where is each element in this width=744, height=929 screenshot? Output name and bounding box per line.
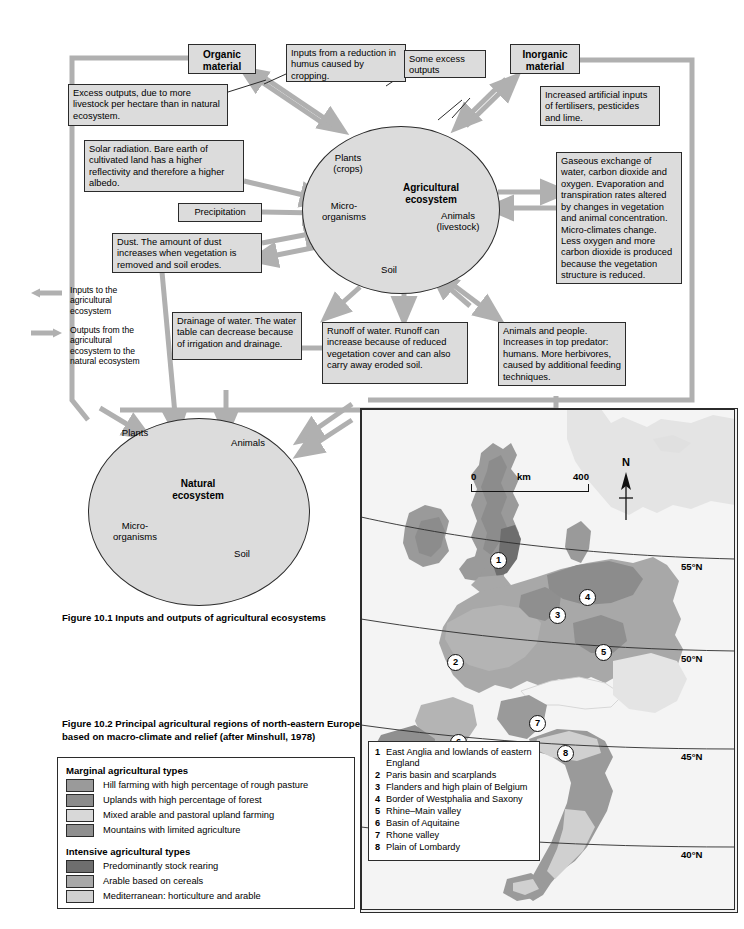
map-marker-2: 2: [447, 654, 464, 671]
map-legend: Marginal agricultural types Hill farming…: [57, 757, 355, 909]
legend-row: Uplands with high percentage of forest: [66, 794, 346, 807]
legend-row: Mountains with limited agriculture: [66, 824, 346, 837]
natural-ecosystem-circle: [88, 418, 310, 606]
north-arrow-icon: [613, 468, 639, 522]
region-key-row: 3Flanders and high plain of Belgium: [375, 782, 533, 793]
legend-swatch: [66, 794, 94, 807]
box-drainage: Drainage of water. The water table can d…: [172, 312, 302, 360]
legend-label: Hill farming with high percentage of rou…: [103, 780, 308, 791]
box-solar-radiation: Solar radiation. Bare earth of cultivate…: [84, 140, 244, 192]
agricultural-ecosystem-title: Agricultural ecosystem: [378, 182, 484, 206]
legend-swatch: [66, 875, 94, 888]
agricultural-plants-label: Plants (crops): [318, 152, 378, 175]
box-fertilisers-text: Increased artificial inputs of fertilise…: [545, 90, 647, 123]
region-key-number: 7: [375, 830, 386, 841]
map-marker-8: 8: [557, 745, 574, 762]
legend-swatch: [66, 779, 94, 792]
nat-soil-text: Soil: [234, 548, 250, 559]
natural-micro-label: Micro- organisms: [100, 520, 170, 543]
box-runoff-text: Runoff of water. Runoff can increase bec…: [327, 326, 451, 370]
box-gaseous-exchange: Gaseous exchange of water, carbon dioxid…: [556, 152, 682, 284]
map-marker-1: 1: [490, 552, 507, 569]
box-precipitation-text: Precipitation: [194, 207, 245, 217]
region-key-row: 4Border of Westphalia and Saxony: [375, 794, 533, 805]
natural-ecosystem-title: Natural ecosystem: [152, 478, 244, 502]
key-outputs-label: Outputs from the agricultural ecosystem …: [70, 325, 144, 367]
agri-micro-l2: organisms: [322, 211, 366, 222]
node-inorganic-material: Inorganic material: [510, 44, 580, 74]
map-marker-3: 3: [549, 607, 566, 624]
agri-title-l2: ecosystem: [405, 194, 457, 205]
agri-animals-l2: (livestock): [437, 221, 480, 232]
box-humus-text: Inputs from a reduction in humus caused …: [291, 48, 396, 81]
region-key-label: Basin of Aquitaine: [386, 818, 533, 829]
region-key-label: Flanders and high plain of Belgium: [386, 782, 533, 793]
region-key-number: 5: [375, 806, 386, 817]
nat-title-l1: Natural: [181, 478, 215, 489]
figure-10-2-caption-l1: Figure 10.2 Principal agricultural regio…: [62, 718, 360, 729]
region-key-label: East Anglia and lowlands of eastern Engl…: [386, 747, 533, 769]
nat-animals-text: Animals: [231, 437, 265, 448]
legend-row: Predominantly stock rearing: [66, 860, 346, 873]
box-humus-input: Inputs from a reduction in humus caused …: [286, 44, 406, 82]
legend-swatch: [66, 824, 94, 837]
region-key-label: Border of Westphalia and Saxony: [386, 794, 533, 805]
legend-row: Mediterranean: horticulture and arable: [66, 890, 346, 903]
nat-title-l2: ecosystem: [172, 490, 224, 501]
legend-swatch: [66, 890, 94, 903]
agricultural-animals-label: Animals (livestock): [422, 210, 494, 233]
lat-label-55n: 55°N: [681, 561, 702, 572]
region-key-number: 4: [375, 794, 386, 805]
organic-line-1: Organic: [203, 49, 241, 60]
box-some-excess-text: Some excess outputs: [409, 54, 465, 75]
region-key-label: Plain of Lombardy: [386, 842, 533, 853]
box-some-excess-outputs: Some excess outputs: [404, 50, 486, 78]
region-key-number: 8: [375, 842, 386, 853]
agri-plants-l1: Plants: [335, 152, 361, 163]
north-arrow: N: [613, 457, 639, 526]
box-solar-text: Solar radiation. Bare earth of cultivate…: [89, 144, 224, 188]
map-scale-bar: 0 km 400: [471, 471, 589, 492]
inorganic-line-1: Inorganic: [522, 49, 567, 60]
legend-label: Predominantly stock rearing: [103, 861, 218, 872]
figure-10-1-caption-text: Figure 10.1 Inputs and outputs of agricu…: [62, 612, 326, 623]
map-region-key: 1East Anglia and lowlands of eastern Eng…: [368, 741, 540, 861]
box-animals-people-text: Animals and people. Increases in top pre…: [503, 326, 621, 382]
map-marker-7: 7: [529, 715, 546, 732]
legend-label: Mountains with limited agriculture: [103, 825, 240, 836]
nat-micro-l1: Micro-: [122, 520, 148, 531]
figure-10-2-caption-l2: based on macro-climate and relief (after…: [62, 731, 315, 742]
legend-label: Mediterranean: horticulture and arable: [103, 891, 261, 902]
agri-title-l1: Agricultural: [403, 182, 459, 193]
nat-micro-l2: organisms: [113, 531, 157, 542]
box-animals-and-people: Animals and people. Increases in top pre…: [498, 322, 626, 386]
region-key-row: 2Paris basin and scarplands: [375, 770, 533, 781]
agricultural-soil-label: Soil: [366, 264, 412, 275]
inorganic-line-2: material: [526, 61, 564, 72]
lat-label-50n: 50°N: [681, 653, 702, 664]
key-inputs-label: Inputs to the agricultural ecosystem: [70, 285, 142, 316]
figure-10-2-caption: Figure 10.2 Principal agricultural regio…: [62, 718, 362, 744]
legend-group-1-rows: Hill farming with high percentage of rou…: [66, 779, 346, 837]
scale-bar-line: [471, 484, 589, 492]
scale-end: 400: [573, 471, 589, 482]
box-excess-outputs: Excess outputs, due to more livestock pe…: [68, 84, 228, 126]
scale-start: 0: [471, 471, 476, 482]
region-key-number: 2: [375, 770, 386, 781]
legend-group-2-title: Intensive agricultural types: [66, 846, 346, 857]
region-key-number: 6: [375, 818, 386, 829]
key-input-arrow-icon: [30, 287, 64, 299]
box-dust-text: Dust. The amount of dust increases when …: [117, 237, 236, 270]
map-marker-4: 4: [579, 589, 596, 606]
legend-group-1-title: Marginal agricultural types: [66, 765, 346, 776]
region-key-label: Paris basin and scarplands: [386, 770, 533, 781]
node-organic-material: Organic material: [188, 44, 256, 74]
region-key-number: 1: [375, 747, 386, 769]
region-key-row: 1East Anglia and lowlands of eastern Eng…: [375, 747, 533, 769]
box-fertilisers: Increased artificial inputs of fertilise…: [540, 86, 660, 126]
box-dust: Dust. The amount of dust increases when …: [112, 233, 262, 273]
box-excess-outputs-text: Excess outputs, due to more livestock pe…: [73, 88, 220, 121]
agri-plants-l2: (crops): [333, 163, 363, 174]
region-key-row: 5Rhine–Main valley: [375, 806, 533, 817]
legend-group-2-rows: Predominantly stock rearingArable based …: [66, 860, 346, 903]
